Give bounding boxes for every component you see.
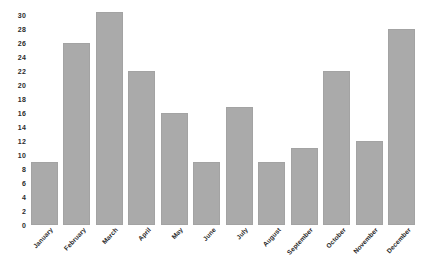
bar-slot — [323, 8, 350, 225]
y-tick-label: 2 — [22, 208, 26, 215]
x-tick-label: October — [324, 226, 347, 250]
y-tick-label: 6 — [22, 180, 26, 187]
plot-area — [28, 8, 418, 225]
y-tick-label: 12 — [18, 138, 26, 145]
y-tick-label: 28 — [18, 26, 26, 33]
y-tick-label: 24 — [18, 54, 26, 61]
x-tick-label: March — [101, 226, 120, 245]
x-tick-label: July — [235, 226, 249, 241]
x-tick-label: May — [170, 226, 184, 240]
x-tick-label: February — [62, 226, 87, 252]
bar-slot — [63, 8, 90, 225]
bar-february[interactable] — [63, 43, 90, 225]
x-tick-label: November — [352, 226, 379, 255]
bar-slot — [291, 8, 318, 225]
x-tick-label: August — [261, 226, 282, 248]
x-tick-label: September — [286, 226, 315, 256]
bar-august[interactable] — [258, 162, 285, 225]
y-tick-label: 20 — [18, 82, 26, 89]
bar-october[interactable] — [323, 71, 350, 225]
bar-january[interactable] — [31, 162, 58, 225]
y-tick-label: 8 — [22, 166, 26, 173]
bar-march[interactable] — [96, 12, 123, 226]
bar-slot — [356, 8, 383, 225]
bar-chart: 024681012141618202224262830 JanuaryFebru… — [0, 0, 423, 276]
bar-slot — [96, 8, 123, 225]
y-tick-label: 18 — [18, 96, 26, 103]
bar-slot — [226, 8, 253, 225]
bar-july[interactable] — [226, 107, 253, 225]
bar-december[interactable] — [388, 29, 415, 225]
bar-september[interactable] — [291, 148, 318, 225]
y-tick-label: 10 — [18, 152, 26, 159]
y-tick-label: 26 — [18, 40, 26, 47]
bar-slot — [161, 8, 188, 225]
y-tick-label: 14 — [18, 124, 26, 131]
x-tick-label: January — [32, 226, 55, 250]
x-tick-label: April — [136, 226, 152, 242]
bar-slot — [128, 8, 155, 225]
bar-june[interactable] — [193, 162, 220, 225]
y-tick-label: 0 — [22, 222, 26, 229]
x-axis: JanuaryFebruaryMarchAprilMayJuneJulyAugu… — [28, 226, 418, 276]
y-tick-label: 16 — [18, 110, 26, 117]
bar-slot — [388, 8, 415, 225]
bar-slot — [31, 8, 58, 225]
bar-may[interactable] — [161, 113, 188, 225]
bar-slot — [193, 8, 220, 225]
bar-november[interactable] — [356, 141, 383, 225]
bar-april[interactable] — [128, 71, 155, 225]
x-tick-label: June — [201, 226, 217, 242]
y-tick-label: 4 — [22, 194, 26, 201]
bar-slot — [258, 8, 285, 225]
y-tick-label: 22 — [18, 68, 26, 75]
y-tick-label: 30 — [18, 12, 26, 19]
x-tick-label: December — [385, 226, 412, 254]
